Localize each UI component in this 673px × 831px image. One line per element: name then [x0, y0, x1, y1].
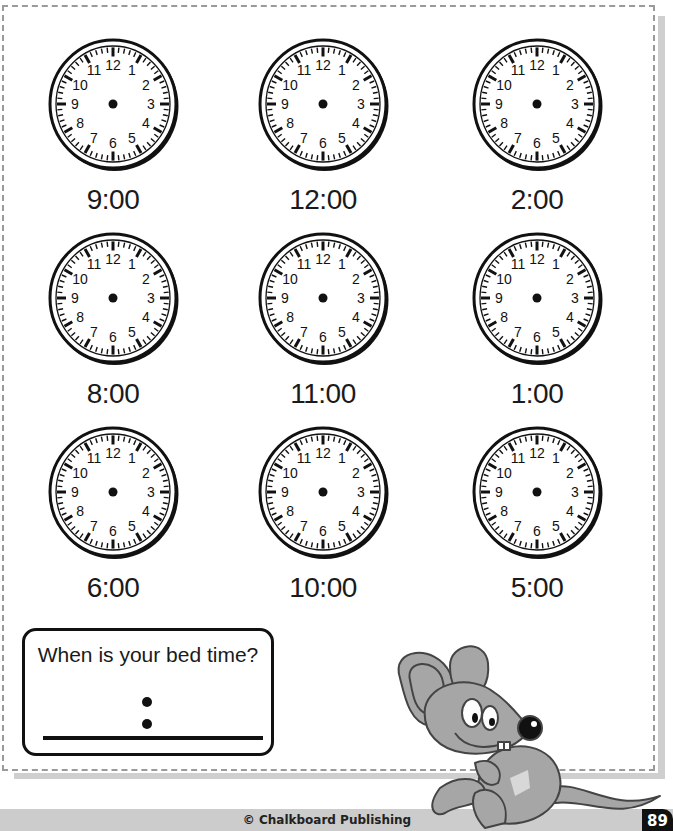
- svg-text:10: 10: [72, 77, 88, 93]
- svg-text:9: 9: [495, 290, 503, 306]
- svg-text:4: 4: [142, 309, 150, 325]
- svg-text:2: 2: [142, 465, 150, 481]
- svg-text:10: 10: [282, 465, 298, 481]
- clock-icon: 121234567891011: [256, 230, 390, 366]
- svg-text:4: 4: [142, 503, 150, 519]
- svg-text:5: 5: [552, 324, 560, 340]
- svg-text:5: 5: [128, 518, 136, 534]
- svg-text:11: 11: [87, 256, 102, 272]
- svg-text:10: 10: [72, 271, 88, 287]
- svg-text:11: 11: [87, 450, 102, 466]
- svg-text:3: 3: [357, 96, 365, 112]
- svg-text:11: 11: [87, 62, 102, 78]
- clock-face[interactable]: 121234567891011: [46, 36, 180, 172]
- svg-text:4: 4: [352, 115, 360, 131]
- clock-face[interactable]: 121234567891011: [46, 424, 180, 560]
- svg-text:2: 2: [352, 77, 360, 93]
- svg-text:6: 6: [319, 523, 327, 539]
- svg-text:4: 4: [352, 503, 360, 519]
- svg-text:9: 9: [281, 96, 289, 112]
- svg-text:8: 8: [500, 503, 508, 519]
- svg-text:12: 12: [529, 445, 545, 461]
- svg-text:3: 3: [571, 96, 579, 112]
- svg-text:12: 12: [105, 57, 121, 73]
- clock-face[interactable]: 121234567891011: [256, 36, 390, 172]
- svg-text:3: 3: [147, 290, 155, 306]
- clock-face[interactable]: 121234567891011: [470, 36, 604, 172]
- clock-time-label: 1:00: [457, 378, 617, 410]
- svg-text:7: 7: [300, 518, 308, 534]
- svg-text:3: 3: [357, 290, 365, 306]
- clock-time-label: 11:00: [243, 378, 403, 410]
- clock-icon: 121234567891011: [256, 36, 390, 172]
- svg-text:7: 7: [90, 518, 98, 534]
- clock-time-label: 10:00: [243, 572, 403, 604]
- svg-text:8: 8: [500, 309, 508, 325]
- svg-text:2: 2: [566, 77, 574, 93]
- svg-text:5: 5: [128, 324, 136, 340]
- clock-icon: 121234567891011: [256, 424, 390, 560]
- svg-text:1: 1: [128, 62, 136, 78]
- colon-dot-bottom: [142, 719, 152, 729]
- svg-text:6: 6: [109, 523, 117, 539]
- svg-text:4: 4: [566, 115, 574, 131]
- svg-text:1: 1: [552, 450, 560, 466]
- svg-text:6: 6: [319, 329, 327, 345]
- clock-face[interactable]: 121234567891011: [256, 424, 390, 560]
- clock-face[interactable]: 121234567891011: [470, 230, 604, 366]
- svg-text:12: 12: [315, 251, 331, 267]
- clock-time-label: 12:00: [243, 184, 403, 216]
- clock-icon: 121234567891011: [470, 36, 604, 172]
- svg-text:9: 9: [71, 484, 79, 500]
- svg-text:6: 6: [533, 329, 541, 345]
- clock-face[interactable]: 121234567891011: [46, 230, 180, 366]
- cartoon-mouse-icon: [380, 638, 670, 831]
- svg-text:11: 11: [511, 450, 526, 466]
- clock-face[interactable]: 121234567891011: [470, 424, 604, 560]
- svg-text:10: 10: [282, 271, 298, 287]
- svg-text:8: 8: [76, 503, 84, 519]
- svg-text:12: 12: [529, 57, 545, 73]
- clock-icon: 121234567891011: [46, 230, 180, 366]
- svg-text:5: 5: [338, 130, 346, 146]
- svg-text:5: 5: [338, 324, 346, 340]
- answer-write-line[interactable]: [43, 736, 263, 740]
- svg-text:3: 3: [357, 484, 365, 500]
- svg-text:12: 12: [315, 445, 331, 461]
- svg-text:5: 5: [128, 130, 136, 146]
- svg-text:1: 1: [128, 450, 136, 466]
- svg-text:5: 5: [338, 518, 346, 534]
- colon-dot-top: [142, 697, 152, 707]
- svg-text:5: 5: [552, 518, 560, 534]
- svg-text:6: 6: [109, 135, 117, 151]
- svg-text:5: 5: [552, 130, 560, 146]
- svg-text:8: 8: [500, 115, 508, 131]
- svg-text:1: 1: [338, 62, 346, 78]
- svg-text:10: 10: [496, 77, 512, 93]
- svg-text:12: 12: [315, 57, 331, 73]
- bedtime-box: When is your bed time?: [22, 628, 274, 756]
- clock-time-label: 6:00: [33, 572, 193, 604]
- svg-text:10: 10: [496, 465, 512, 481]
- clock-icon: 121234567891011: [470, 230, 604, 366]
- svg-text:12: 12: [529, 251, 545, 267]
- svg-text:9: 9: [71, 96, 79, 112]
- svg-text:7: 7: [300, 130, 308, 146]
- svg-text:12: 12: [105, 251, 121, 267]
- svg-text:8: 8: [286, 503, 294, 519]
- svg-text:11: 11: [297, 256, 312, 272]
- svg-text:11: 11: [511, 62, 526, 78]
- svg-text:2: 2: [142, 77, 150, 93]
- svg-text:10: 10: [72, 465, 88, 481]
- clock-face[interactable]: 121234567891011: [256, 230, 390, 366]
- svg-text:9: 9: [281, 484, 289, 500]
- svg-text:3: 3: [147, 96, 155, 112]
- svg-text:6: 6: [533, 523, 541, 539]
- svg-text:8: 8: [76, 115, 84, 131]
- svg-text:9: 9: [71, 290, 79, 306]
- clock-time-label: 9:00: [33, 184, 193, 216]
- svg-text:7: 7: [514, 130, 522, 146]
- svg-text:11: 11: [297, 450, 312, 466]
- svg-text:11: 11: [297, 62, 312, 78]
- svg-text:7: 7: [90, 324, 98, 340]
